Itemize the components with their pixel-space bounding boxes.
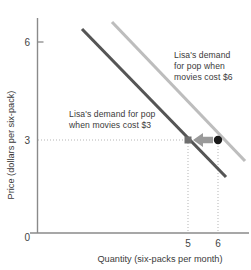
chart-figure: 6 3 0 5 6 Price (dollars per six-pack) Q… [0,0,251,270]
annotation-demand-movies-cost-6: Lisa's demand for pop when movies cost $… [174,50,250,84]
x-tick-label-6: 6 [215,238,221,249]
y-tick-label-0: 0 [24,232,30,243]
y-axis-title: Price (dollars per six-pack) [6,91,16,200]
x-axis-title: Quantity (six-packs per month) [97,254,222,264]
y-tick-label-6: 6 [24,37,30,48]
x-tick-label-5: 5 [185,238,191,249]
marker-quantity-5-price-3 [185,137,192,144]
chart-canvas: 6 3 0 5 6 Price (dollars per six-pack) Q… [0,0,251,270]
annotation-demand-movies-cost-3: Lisa's demand for pop when movies cost $… [69,109,169,131]
y-tick-label-3: 3 [24,135,30,146]
marker-quantity-6-price-3 [214,136,222,144]
